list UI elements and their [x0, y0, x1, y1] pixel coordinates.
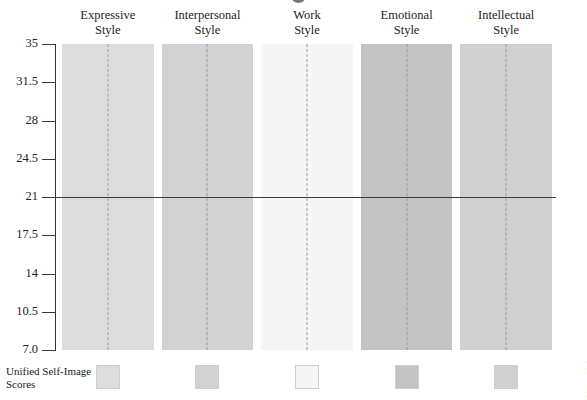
- y-axis-tick-mark: [42, 235, 56, 236]
- column-header-line1: Interpersonal: [158, 8, 258, 23]
- y-axis-tick-mark: [42, 274, 56, 275]
- column-header-emotional-style: Emotional Style: [357, 8, 457, 40]
- column-header-line1: Expressive: [58, 8, 158, 23]
- column-header-expressive-style: Expressive Style: [58, 8, 158, 40]
- legend-swatch-work-style: [295, 365, 319, 389]
- legend-swatch-expressive-style: [96, 365, 120, 389]
- y-axis-tick-label: 17.5: [16, 227, 38, 242]
- legend-swatch-interpersonal-style: [195, 365, 219, 389]
- column-header-line2: Style: [58, 23, 158, 38]
- y-axis-tick-mark: [42, 159, 56, 160]
- legend-label-line2: Scores: [6, 378, 35, 390]
- legend-swatch-emotional-style: [395, 365, 419, 389]
- column-header-intellectual-style: Intellectual Style: [456, 8, 556, 40]
- y-axis-tick-mark: [42, 197, 56, 198]
- column-header-line1: Intellectual: [456, 8, 556, 23]
- reference-line-21: [55, 197, 556, 198]
- y-axis-tick-mark: [42, 82, 56, 83]
- column-header-interpersonal-style: Interpersonal Style: [158, 8, 258, 40]
- legend-cell-intellectual-style: [456, 365, 556, 395]
- y-axis-tick-mark: [42, 44, 56, 45]
- logo-mark: [292, 0, 305, 3]
- column-header-line1: Work: [257, 8, 357, 23]
- legend-cell-expressive-style: [58, 365, 158, 395]
- y-axis-tick-label: 7.0: [22, 342, 38, 357]
- y-axis-tick-mark: [42, 350, 56, 351]
- column-header-work-style: Work Style: [257, 8, 357, 40]
- column-header-line2: Style: [357, 23, 457, 38]
- legend-cell-work-style: [257, 365, 357, 395]
- y-axis-tick-mark: [42, 312, 56, 313]
- column-header-line2: Style: [158, 23, 258, 38]
- legend-swatch-intellectual-style: [494, 365, 518, 389]
- column-headers: Expressive Style Interpersonal Style Wor…: [58, 8, 556, 40]
- legend-cell-interpersonal-style: [158, 365, 258, 395]
- legend-cell-emotional-style: [357, 365, 457, 395]
- y-axis-tick-mark: [42, 121, 56, 122]
- y-axis-tick-label: 31.5: [16, 74, 38, 89]
- y-axis-tick-label: 24.5: [16, 151, 38, 166]
- y-axis-tick-label: 14: [26, 266, 39, 281]
- y-axis-tick-label: 35: [26, 36, 39, 51]
- column-header-line1: Emotional: [357, 8, 457, 23]
- y-axis-tick-label: 10.5: [16, 304, 38, 319]
- y-axis-tick-label: 28: [26, 113, 39, 128]
- y-axis-tick-label: 21: [26, 189, 39, 204]
- legend-swatches: [58, 365, 556, 395]
- legend: Unified Self-Image Scores: [0, 365, 587, 397]
- column-header-line2: Style: [456, 23, 556, 38]
- column-header-line2: Style: [257, 23, 357, 38]
